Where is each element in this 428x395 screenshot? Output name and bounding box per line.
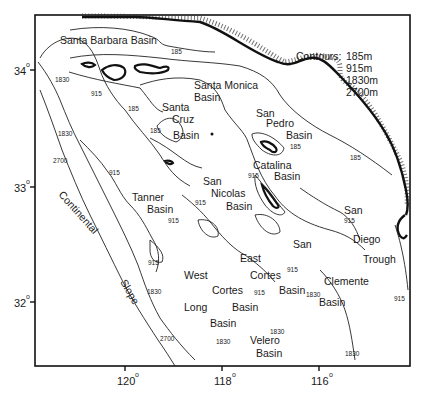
degree-symbol: o bbox=[232, 371, 236, 378]
label-santa-monica-basin: Basin bbox=[194, 91, 220, 103]
label-san-nicolas-3: Basin bbox=[226, 200, 252, 212]
bathymetric-map: 185 1830 915 185 185 1830 2700 915 185 1… bbox=[0, 0, 428, 395]
degree-symbol: o bbox=[26, 293, 30, 300]
legend-item-2700m: 2700m bbox=[346, 86, 378, 98]
contour-label: 915 bbox=[344, 217, 355, 224]
contour-label: 1830 bbox=[58, 130, 73, 137]
label-long-1: Long bbox=[184, 301, 208, 313]
contour-label: 185 bbox=[290, 143, 301, 150]
contour-label: 915 bbox=[148, 259, 159, 266]
legend-item-915m: 915m bbox=[346, 62, 373, 74]
label-san-diego-1: San bbox=[344, 204, 363, 216]
label-east-cortes-3: Basin bbox=[279, 284, 305, 296]
label-velero-2: Basin bbox=[256, 347, 282, 359]
label-san-clemente-2: Clemente bbox=[324, 275, 369, 287]
degree-symbol: o bbox=[329, 371, 333, 378]
label-east-cortes-1: East bbox=[240, 252, 261, 264]
label-west-cortes-1: West bbox=[184, 269, 208, 281]
degree-symbol: o bbox=[26, 178, 30, 185]
y-axis: 34 o 33 o 32 o bbox=[14, 61, 35, 309]
label-east-cortes-2: Cortes bbox=[250, 269, 281, 281]
contour-label: 1830 bbox=[345, 350, 360, 357]
label-continental: Continental bbox=[57, 188, 101, 236]
contour-label: 1830 bbox=[147, 288, 162, 295]
contour-label: 915 bbox=[109, 169, 120, 176]
x-tick-label-118: 118 bbox=[214, 375, 232, 387]
contour-label: 185 bbox=[171, 48, 182, 55]
label-san-diego-2: Diego bbox=[353, 233, 381, 245]
label-west-cortes-3: Basin bbox=[232, 301, 258, 313]
contour-label: 1830 bbox=[55, 76, 70, 83]
contour-label: 2700 bbox=[160, 335, 175, 342]
y-tick-label-34: 34 bbox=[14, 65, 26, 77]
label-san-clemente-3: Basin bbox=[319, 296, 345, 308]
label-santa-cruz-3: Basin bbox=[173, 129, 199, 141]
legend-item-1830m: 1830m bbox=[346, 74, 378, 86]
label-west-cortes-2: Cortes bbox=[212, 284, 243, 296]
island-santa-cruz bbox=[135, 64, 169, 73]
contour-label: 915 bbox=[168, 217, 179, 224]
legend-item-185m: 185m bbox=[346, 50, 373, 62]
label-santa-cruz-2: Cruz bbox=[172, 113, 194, 125]
island-san-miguel bbox=[82, 63, 95, 68]
contour-label: 2700 bbox=[53, 157, 68, 164]
contour-label: 185 bbox=[128, 105, 139, 112]
island-santa-barbara-dot bbox=[211, 133, 214, 136]
degree-symbol: o bbox=[26, 61, 30, 68]
x-tick-label-120: 120 bbox=[117, 375, 135, 387]
label-slope: Slope bbox=[118, 277, 142, 306]
label-long-2: Basin bbox=[210, 317, 236, 329]
island-santa-rosa bbox=[102, 65, 125, 80]
label-velero-1: Velero bbox=[250, 334, 280, 346]
label-san-pedro-2: Pedro bbox=[266, 117, 294, 129]
label-tanner-1: Tanner bbox=[132, 191, 165, 203]
label-tanner-2: Basin bbox=[147, 203, 173, 215]
contour-label: 915 bbox=[91, 90, 102, 97]
label-san-diego-3: Trough bbox=[363, 253, 396, 265]
y-tick-label-33: 33 bbox=[14, 182, 26, 194]
contour-label: 915 bbox=[254, 289, 265, 296]
contour-label: 915 bbox=[287, 266, 298, 273]
contour-label: 1830 bbox=[216, 338, 231, 345]
contour-label: 915 bbox=[248, 172, 259, 179]
x-tick-label-116: 116 bbox=[311, 375, 329, 387]
label-catalina-2: Basin bbox=[274, 170, 300, 182]
label-san-nicolas-2: Nicolas bbox=[211, 187, 245, 199]
label-san-pedro-3: Basin bbox=[286, 129, 312, 141]
degree-symbol: o bbox=[135, 371, 139, 378]
x-axis: 120 o 118 o 116 o bbox=[117, 366, 333, 387]
y-tick-label-32: 32 bbox=[14, 297, 26, 309]
contour-label: 915 bbox=[394, 295, 405, 302]
label-san-clemente-1: San bbox=[293, 238, 312, 250]
island-santa-barbara bbox=[165, 161, 173, 164]
contour-label: 185 bbox=[350, 154, 361, 161]
label-santa-barbara-basin: Santa Barbara Basin bbox=[60, 34, 157, 46]
label-santa-monica: Santa Monica bbox=[194, 79, 258, 91]
contour-label: 915 bbox=[195, 199, 206, 206]
label-santa-cruz-1: Santa bbox=[162, 101, 190, 113]
contour-label: 185 bbox=[150, 127, 161, 134]
label-san-nicolas-1: San bbox=[203, 175, 222, 187]
legend-title: Contours: bbox=[296, 50, 342, 62]
